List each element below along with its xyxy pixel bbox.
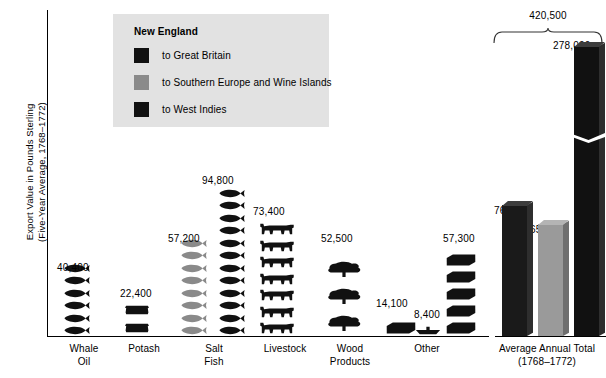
pictogram-value-label: 52,500 <box>321 233 353 244</box>
whale-icon <box>59 312 95 324</box>
cow-icon <box>258 320 296 336</box>
bar-face <box>538 224 563 336</box>
legend-item-southern-europe: to Southern Europe and Wine Islands <box>134 74 332 90</box>
fish-icon <box>178 312 210 324</box>
pictogram-column <box>256 221 298 336</box>
pictogram-value-label: 94,800 <box>202 175 234 186</box>
fish-icon <box>178 299 210 311</box>
crate-icon <box>444 269 478 285</box>
pictogram-value-label: 57,200 <box>168 233 200 244</box>
cow-icon <box>258 271 296 287</box>
fish-icon <box>216 187 248 199</box>
whale-icon <box>59 274 95 286</box>
fish-icon <box>216 324 248 336</box>
pictogram-column <box>442 252 480 336</box>
crate-icon <box>444 286 478 302</box>
fish-icon <box>216 299 248 311</box>
crate-icon <box>444 286 478 302</box>
fish-icon <box>216 312 248 324</box>
fish-icon <box>178 262 210 274</box>
fish-icon <box>178 249 210 261</box>
whale-icon <box>59 324 95 336</box>
legend-label-great-britain: to Great Britain <box>162 50 231 61</box>
crate-icon <box>444 252 478 268</box>
fish-icon <box>178 274 210 286</box>
fish-icon <box>178 287 210 299</box>
x-axis-category-label-total: Average Annual Total(1768–1772) <box>488 343 606 368</box>
x-axis-category-label: Other <box>368 343 486 356</box>
tree-icon <box>324 283 364 309</box>
fish-icon <box>216 199 248 211</box>
legend-label-southern-europe: to Southern Europe and Wine Islands <box>162 77 332 88</box>
pictogram-value-label: 73,400 <box>253 206 285 217</box>
pictogram-column <box>120 302 154 336</box>
legend-title: New England <box>134 26 198 37</box>
fish-icon <box>178 262 210 274</box>
fish-icon <box>178 287 210 299</box>
fish-icon <box>216 224 248 236</box>
fish-icon <box>216 187 248 199</box>
legend-label-west-indies: to West Indies <box>162 104 227 115</box>
fish-icon <box>216 262 248 274</box>
crate-icon <box>444 303 478 319</box>
crate-icon <box>444 269 478 285</box>
total-brace-icon <box>492 28 604 44</box>
whale-icon <box>59 324 95 336</box>
cow-icon <box>258 238 296 254</box>
fish-icon <box>216 199 248 211</box>
fish-icon <box>216 237 248 249</box>
cow-icon <box>258 254 296 270</box>
fish-icon <box>216 249 248 261</box>
cow-icon <box>258 287 296 303</box>
bar <box>538 224 563 336</box>
bar-side <box>599 43 605 336</box>
y-axis-title: Export Value in Pounds Sterling (Five-Ye… <box>24 57 48 287</box>
pictogram-column <box>322 256 366 336</box>
whale-icon <box>59 274 95 286</box>
fish-icon <box>216 274 248 286</box>
fish-icon <box>216 274 248 286</box>
pictogram-column <box>214 187 250 337</box>
pictogram-value-label: 8,400 <box>414 309 440 320</box>
fish-icon <box>216 262 248 274</box>
y-axis-title-line1: Export Value in Pounds Sterling <box>24 57 36 287</box>
x-axis-line <box>47 336 489 337</box>
fish-icon <box>216 212 248 224</box>
fish-icon <box>216 299 248 311</box>
tree-icon <box>324 283 364 309</box>
bar-face <box>502 205 527 336</box>
pictogram-value-label: 40,400 <box>57 262 89 273</box>
whale-icon <box>59 299 95 311</box>
fish-icon <box>178 324 210 336</box>
whale-icon <box>59 312 95 324</box>
bar-side <box>563 221 569 336</box>
fish-icon <box>178 249 210 261</box>
fish-icon <box>178 299 210 311</box>
legend: New England to Great Britain to Southern… <box>113 14 329 127</box>
bar <box>502 205 527 336</box>
legend-swatch-great-britain <box>134 48 149 63</box>
cow-icon <box>258 238 296 254</box>
pictogram-value-label: 14,100 <box>376 298 408 309</box>
total-value-label: 420,500 <box>492 10 604 21</box>
boat-icon <box>414 325 442 336</box>
legend-swatch-west-indies <box>134 102 149 117</box>
legend-item-great-britain: to Great Britain <box>134 47 231 63</box>
pictogram-value-label: 57,300 <box>443 233 475 244</box>
crate-icon <box>444 252 478 268</box>
fish-icon <box>216 324 248 336</box>
fish-icon <box>216 237 248 249</box>
cow-icon <box>258 221 296 237</box>
barrel-icon <box>122 302 152 318</box>
whale-icon <box>59 287 95 299</box>
fish-icon <box>216 212 248 224</box>
cow-icon <box>258 320 296 336</box>
x-axis-line-right <box>495 336 606 337</box>
crate-icon <box>444 320 478 336</box>
tree-icon <box>324 310 364 336</box>
bar-face <box>574 46 599 336</box>
pictogram-value-label: 22,400 <box>120 288 152 299</box>
y-axis-line <box>47 10 48 337</box>
barrel-icon <box>122 320 152 336</box>
legend-item-west-indies: to West Indies <box>134 101 227 117</box>
